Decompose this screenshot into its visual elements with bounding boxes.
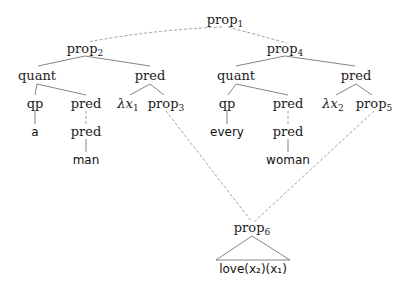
triangle-prop6: [216, 236, 290, 260]
node-pred-left-2: pred: [71, 96, 102, 111]
edge-pred-prop5: [356, 84, 372, 95]
edge-pred-lambda2: [336, 84, 356, 95]
node-prop6: prop6: [234, 220, 271, 237]
node-prop1: prop1: [207, 12, 243, 29]
node-pred-right-3: pred: [273, 124, 304, 139]
node-every: every: [210, 125, 244, 139]
node-pred-left: pred: [135, 68, 166, 83]
node-pred-right-2: pred: [273, 96, 304, 111]
node-prop5: prop5: [356, 96, 393, 113]
node-pred-right: pred: [341, 68, 372, 83]
edge-prop4-pred: [285, 56, 355, 66]
node-lambda-x2: λx2: [321, 96, 343, 113]
edge-prop4-quant: [236, 56, 285, 66]
node-qp-left: qp: [27, 96, 44, 111]
node-quant-left: quant: [18, 68, 57, 83]
node-prop3: prop3: [148, 96, 185, 113]
edge-prop2-quant: [38, 56, 85, 66]
node-a: a: [31, 125, 38, 139]
edge-prop1-prop2: [88, 27, 222, 42]
node-prop2: prop2: [67, 41, 103, 58]
node-qp-right: qp: [219, 96, 236, 111]
edge-pred-prop3: [150, 84, 164, 95]
node-pred-left-3: pred: [71, 124, 102, 139]
node-lambda-x1: λx1: [116, 96, 138, 113]
edge-quant-qp-right: [228, 84, 236, 95]
edge-quant-pred-right: [236, 84, 288, 95]
node-love-formula: love(x₂)(x₁): [219, 262, 287, 276]
node-quant-right: quant: [217, 68, 256, 83]
edge-quant-pred-left: [37, 84, 86, 95]
node-prop4: prop4: [267, 41, 304, 58]
edge-prop2-pred: [85, 56, 150, 66]
edge-pred-lambda1: [130, 84, 150, 95]
syntax-tree-diagram: prop1 prop2 prop4 quant pred quant pred …: [0, 0, 405, 293]
edge-quant-qp-left: [35, 84, 37, 95]
node-man: man: [73, 153, 100, 167]
node-woman: woman: [266, 153, 310, 167]
